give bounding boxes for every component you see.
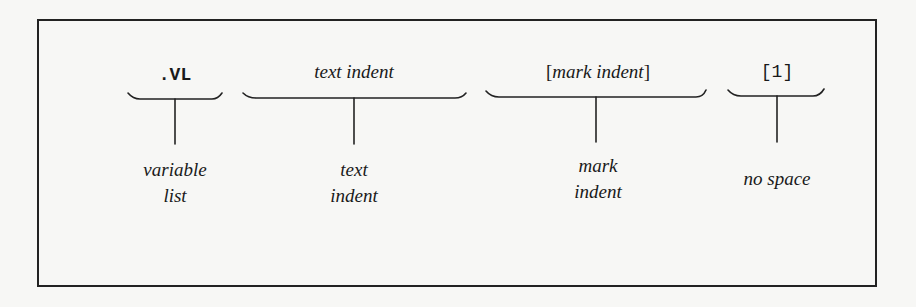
brace-no-space [728,89,824,96]
bottom-line: list [143,183,206,209]
bottom-line: indent [574,179,622,205]
bottom-label-no-space: no space [743,166,810,192]
bottom-line: mark [574,153,622,179]
bottom-line: indent [330,183,378,209]
bottom-label-text-indent: text indent [330,157,378,209]
bottom-label-vl: variable list [143,157,206,209]
brace-text-indent [243,93,466,98]
brace-mark-indent [486,90,706,97]
bottom-line: text [330,157,378,183]
bottom-label-mark-indent: mark indent [574,153,622,205]
bottom-line: variable [143,157,206,183]
brace-layer [0,0,916,307]
brace-vl [128,93,222,99]
bottom-line: no space [743,166,810,192]
